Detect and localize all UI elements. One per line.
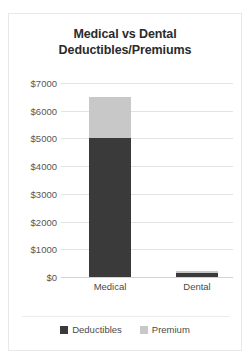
- gridline: [61, 83, 233, 84]
- y-axis-tick-label: $0: [11, 272, 57, 283]
- gridline: [61, 111, 233, 112]
- gridline: [61, 166, 233, 167]
- y-axis-tick-label: $5000: [11, 133, 57, 144]
- bar-segment-deductibles[interactable]: [176, 273, 218, 277]
- y-axis-tick-label: $3000: [11, 188, 57, 199]
- gridline: [61, 249, 233, 250]
- y-axis-tick-label: $2000: [11, 216, 57, 227]
- plot-area: [61, 83, 233, 277]
- legend-swatch-icon: [60, 326, 68, 334]
- legend-swatch-icon: [140, 326, 148, 334]
- plot-wrapper: $7000$6000$5000$4000$3000$2000$1000$0 Me…: [9, 14, 241, 350]
- x-axis-label-dental: Dental: [157, 281, 237, 292]
- y-axis-tick-label: $6000: [11, 105, 57, 116]
- legend-separator: [22, 316, 230, 317]
- legend-item-premium[interactable]: Premium: [140, 324, 190, 335]
- y-axis-tick-label: $7000: [11, 78, 57, 89]
- legend-label: Premium: [152, 324, 190, 335]
- gridline: [61, 194, 233, 195]
- y-axis-tick-label: $1000: [11, 244, 57, 255]
- gridline: [61, 222, 233, 223]
- bar-segment-deductibles[interactable]: [89, 138, 131, 277]
- chart-card: Medical vs Dental Deductibles/Premiums $…: [8, 13, 242, 351]
- legend-item-deductibles[interactable]: Deductibles: [60, 324, 122, 335]
- bar-segment-premium[interactable]: [89, 97, 131, 139]
- chart-legend: DeductiblesPremium: [9, 324, 241, 335]
- gridline: [61, 138, 233, 139]
- y-axis-labels: $7000$6000$5000$4000$3000$2000$1000$0: [9, 83, 57, 277]
- y-axis-tick-label: $4000: [11, 161, 57, 172]
- gridline: [61, 277, 233, 278]
- legend-label: Deductibles: [72, 324, 122, 335]
- x-axis-label-medical: Medical: [70, 281, 150, 292]
- bar-segment-premium[interactable]: [176, 271, 218, 272]
